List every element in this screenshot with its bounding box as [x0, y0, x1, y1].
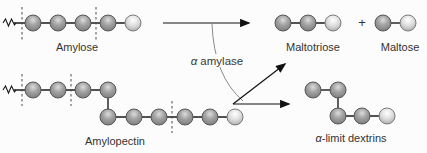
- glucose-unit-terminal: [379, 108, 395, 124]
- glucose-unit-branch-point: [100, 82, 116, 98]
- amylopectin-molecule: Amylopectin: [3, 74, 243, 147]
- glucose-unit-branch-point: [330, 82, 346, 98]
- alpha-symbol: α: [191, 55, 198, 67]
- amylose-label: Amylose: [56, 41, 98, 53]
- glucose-unit: [100, 109, 116, 125]
- glucose-unit: [354, 108, 370, 124]
- alpha-limit-dextrins-label: α-limit dextrins: [315, 132, 387, 144]
- glucose-unit: [75, 15, 91, 31]
- dextrins-name: -limit dextrins: [322, 132, 387, 144]
- glucose-unit-terminal: [227, 109, 243, 125]
- glucose-unit: [50, 82, 66, 98]
- glucose-unit: [375, 15, 391, 31]
- maltotriose-molecule: Maltotriose: [275, 15, 341, 53]
- amylopectin-label: Amylopectin: [85, 135, 145, 147]
- glucose-unit-terminal: [400, 15, 416, 31]
- glucose-unit: [151, 109, 167, 125]
- glucose-unit: [177, 109, 193, 125]
- maltotriose-label: Maltotriose: [286, 41, 340, 53]
- reaction-arrow-to-maltotriose: [233, 64, 285, 104]
- glucose-unit: [202, 109, 218, 125]
- enzyme-name: amylase: [200, 55, 243, 67]
- glucose-unit: [75, 82, 91, 98]
- glucose-unit: [330, 108, 346, 124]
- glucose-unit: [100, 15, 116, 31]
- starch-digestion-diagram: Amylose αamylase Maltotriose + Maltose: [0, 0, 427, 153]
- glucose-unit: [50, 15, 66, 31]
- glucose-unit-terminal: [325, 15, 341, 31]
- maltose-molecule: Maltose: [375, 15, 419, 53]
- glucose-unit: [305, 82, 321, 98]
- glucose-unit: [126, 109, 142, 125]
- glucose-unit: [300, 15, 316, 31]
- maltose-label: Maltose: [381, 41, 420, 53]
- glucose-unit: [275, 15, 291, 31]
- amylose-molecule: Amylose: [3, 7, 141, 53]
- alpha-limit-dextrins-molecule: α-limit dextrins: [305, 82, 395, 144]
- plus-sign: +: [358, 15, 366, 30]
- glucose-unit-terminal: [125, 15, 141, 31]
- diagram-canvas: Amylose αamylase Maltotriose + Maltose: [0, 0, 427, 153]
- glucose-unit: [25, 15, 41, 31]
- glucose-unit: [25, 82, 41, 98]
